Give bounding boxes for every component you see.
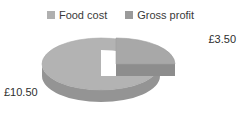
pie-graphic (0, 0, 241, 119)
pie-slice-gross-profit (116, 38, 175, 76)
data-label-food-cost: £10.50 (4, 86, 38, 98)
pie-slice-gross-profit-side-front (116, 64, 175, 76)
pie-chart-figure: — — —— ——— Food cost Gross profit (0, 0, 241, 119)
pie-slice-gross-profit-top (116, 38, 175, 64)
data-label-gross-profit: £3.50 (208, 33, 236, 45)
